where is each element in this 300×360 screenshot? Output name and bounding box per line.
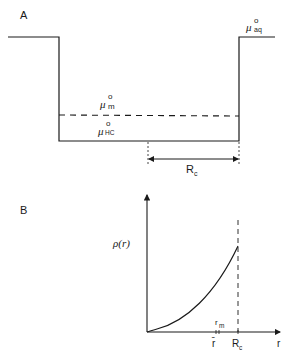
mu-m-label: μ o m [99,92,115,111]
panel-b: B ρ(r) r r̄ r m R c [20,195,281,351]
svg-text:HC: HC [105,129,115,136]
svg-text:c: c [239,344,243,351]
figure: A μ o aq μ o m μ o HC R c [0,0,300,360]
rm-label: r m [215,318,224,329]
rc-dimension: R c [148,142,239,177]
panel-a-label: A [20,9,28,21]
rbar-label: r̄ [211,337,216,349]
micelle-level-dashed-line [59,115,239,116]
svg-text:m: m [108,102,115,111]
potential-well [8,37,275,141]
svg-text:o: o [106,119,111,128]
panel-a: A μ o aq μ o m μ o HC R c [8,9,275,177]
svg-text:o: o [108,92,113,101]
svg-text:r: r [215,318,218,327]
mu-hc-label: μ o HC [97,119,115,137]
panel-b-label: B [20,204,27,216]
svg-text:μ: μ [245,21,252,33]
svg-text:o: o [254,16,259,25]
svg-text:m: m [219,322,224,329]
svg-text:R: R [186,163,194,175]
y-axis-label: ρ(r) [112,237,130,250]
svg-text:μ: μ [99,98,106,110]
mu-aq-label: μ o aq [245,16,262,34]
svg-text:μ: μ [97,125,104,137]
density-curve [147,246,238,332]
svg-text:aq: aq [254,26,262,34]
rc-axis-label: R c [232,338,243,351]
svg-text:c: c [194,170,198,177]
x-axis-label: r [277,338,281,349]
